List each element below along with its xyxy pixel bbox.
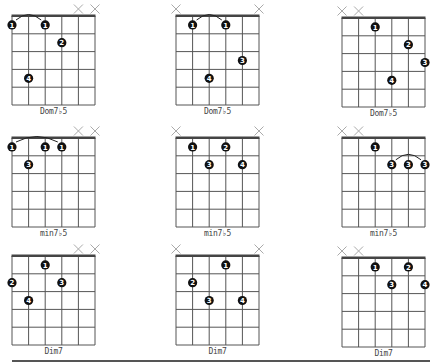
svg-text:1: 1 <box>373 264 378 272</box>
svg-text:1: 1 <box>43 22 48 30</box>
svg-text:2: 2 <box>406 41 411 49</box>
svg-text:1: 1 <box>223 22 228 30</box>
fretboard-grid: 1333 <box>342 126 430 241</box>
chord-label: Dom7♭5 <box>176 107 260 116</box>
svg-text:4: 4 <box>207 75 212 83</box>
chord-diagram-dom7b5-1: 1124Dom7♭5 <box>12 4 132 119</box>
finger-dot: 2 <box>221 142 230 151</box>
chord-diagram-dim7-2: 1234Dim7 <box>176 244 296 359</box>
svg-text:2: 2 <box>190 279 195 287</box>
muted-string-x-icon <box>172 5 181 14</box>
svg-text:1: 1 <box>373 144 378 152</box>
chord-label: Dom7♭5 <box>342 109 426 118</box>
fretboard-grid: 1113 <box>12 126 132 241</box>
muted-string-x-icon <box>172 127 181 136</box>
svg-text:1: 1 <box>59 144 64 152</box>
finger-dot: 3 <box>420 58 429 67</box>
svg-text:2: 2 <box>223 144 228 152</box>
svg-text:3: 3 <box>423 161 428 169</box>
finger-dot: 1 <box>371 22 380 31</box>
finger-dot: 4 <box>387 76 396 85</box>
finger-dot: 2 <box>404 40 413 49</box>
svg-text:1: 1 <box>43 262 48 270</box>
muted-string-x-icon <box>354 7 363 16</box>
muted-string-x-icon <box>172 245 181 254</box>
fretboard-grid: 1234 <box>342 246 430 361</box>
finger-dot: 3 <box>387 160 396 169</box>
chord-diagram-dom7b5-3: 1234Dom7♭5 <box>342 6 430 121</box>
svg-text:3: 3 <box>59 279 64 287</box>
muted-string-x-icon <box>338 247 347 256</box>
svg-text:3: 3 <box>406 161 411 169</box>
svg-text:2: 2 <box>10 279 15 287</box>
finger-dot: 1 <box>221 20 230 29</box>
muted-string-x-icon <box>255 245 264 254</box>
chord-label: Dim7 <box>342 349 426 358</box>
chord-diagram-min7b5-1: 1113min7♭5 <box>12 126 132 241</box>
svg-text:3: 3 <box>207 297 212 305</box>
muted-string-x-icon <box>74 245 83 254</box>
svg-text:3: 3 <box>207 161 212 169</box>
svg-text:2: 2 <box>59 39 64 47</box>
finger-dot: 3 <box>205 160 214 169</box>
muted-string-x-icon <box>338 127 347 136</box>
chord-label: min7♭5 <box>12 229 96 238</box>
muted-string-x-icon <box>74 5 83 14</box>
muted-string-x-icon <box>354 127 363 136</box>
muted-string-x-icon <box>91 5 100 14</box>
svg-text:4: 4 <box>240 297 245 305</box>
finger-dot: 2 <box>7 278 16 287</box>
finger-dot: 1 <box>7 20 16 29</box>
chord-diagram-min7b5-2: 1234min7♭5 <box>176 126 296 241</box>
svg-text:1: 1 <box>10 22 15 30</box>
fretboard-grid: 1234 <box>176 244 296 359</box>
svg-text:3: 3 <box>389 161 394 169</box>
finger-dot: 1 <box>41 260 50 269</box>
finger-dot: 4 <box>420 280 429 289</box>
svg-text:4: 4 <box>240 161 245 169</box>
finger-dot: 3 <box>420 160 429 169</box>
chord-diagram-dom7b5-2: 1134Dom7♭5 <box>176 4 296 119</box>
fretboard-grid: 1124 <box>12 4 132 119</box>
muted-string-x-icon <box>74 127 83 136</box>
svg-text:1: 1 <box>43 144 48 152</box>
finger-dot: 4 <box>24 74 33 83</box>
fretboard-grid: 1234 <box>12 244 132 359</box>
finger-dot: 1 <box>371 262 380 271</box>
svg-text:1: 1 <box>223 262 228 270</box>
chord-label: Dom7♭5 <box>12 107 96 116</box>
bottom-divider <box>12 360 430 362</box>
svg-text:4: 4 <box>26 75 31 83</box>
svg-text:1: 1 <box>10 144 15 152</box>
svg-text:3: 3 <box>423 59 428 67</box>
chord-label: min7♭5 <box>176 229 260 238</box>
finger-dot: 3 <box>24 160 33 169</box>
finger-dot: 1 <box>188 20 197 29</box>
chord-diagram-dim7-3: 1234Dim7 <box>342 246 430 361</box>
svg-text:2: 2 <box>406 264 411 272</box>
finger-dot: 4 <box>205 74 214 83</box>
finger-dot: 2 <box>188 278 197 287</box>
svg-text:3: 3 <box>26 161 31 169</box>
finger-dot: 4 <box>238 296 247 305</box>
finger-dot: 1 <box>41 142 50 151</box>
finger-dot: 1 <box>188 142 197 151</box>
svg-text:4: 4 <box>389 77 394 85</box>
svg-text:1: 1 <box>190 22 195 30</box>
finger-dot: 1 <box>371 142 380 151</box>
chord-label: Dim7 <box>176 347 260 356</box>
finger-dot: 3 <box>57 278 66 287</box>
chord-label: Dim7 <box>12 347 96 356</box>
fretboard-grid: 1134 <box>176 4 296 119</box>
muted-string-x-icon <box>255 5 264 14</box>
finger-dot: 2 <box>57 38 66 47</box>
finger-dot: 3 <box>387 280 396 289</box>
svg-text:1: 1 <box>190 144 195 152</box>
finger-dot: 2 <box>404 262 413 271</box>
fretboard-grid: 1234 <box>342 6 430 121</box>
fretboard-grid: 1234 <box>176 126 296 241</box>
muted-string-x-icon <box>354 247 363 256</box>
finger-dot: 1 <box>221 260 230 269</box>
svg-text:3: 3 <box>389 281 394 289</box>
svg-text:4: 4 <box>423 281 428 289</box>
